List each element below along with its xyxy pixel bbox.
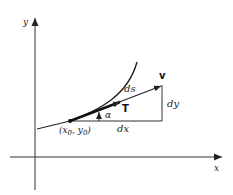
tangent-vector-diagram: y x v ds T α dy dx (x0, y0) bbox=[0, 0, 233, 195]
point-label-close: ) bbox=[86, 125, 91, 135]
point-label-open: (x bbox=[59, 125, 68, 135]
point-label: (x0, y0) bbox=[59, 125, 91, 137]
v-label: v bbox=[159, 70, 166, 81]
x-axis-label: x bbox=[214, 163, 219, 173]
y-axis-label: y bbox=[22, 17, 29, 27]
T-label: T bbox=[122, 103, 129, 114]
dy-label: dy bbox=[167, 98, 179, 109]
point-x0-y0 bbox=[68, 119, 72, 123]
dx-label: dx bbox=[117, 123, 129, 134]
alpha-label: α bbox=[105, 110, 111, 120]
ds-label: ds bbox=[124, 83, 136, 94]
unit-tangent-T bbox=[70, 102, 120, 121]
